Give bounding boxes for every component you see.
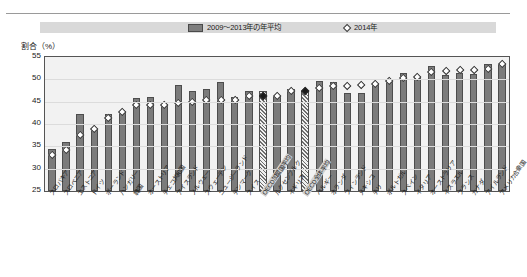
legend-bar-label: 2009～2013年の年平均 — [207, 24, 281, 32]
y-tick-label: 40 — [32, 119, 44, 127]
y-tick-label: 30 — [32, 163, 44, 171]
legend-item-bar: 2009～2013年の年平均 — [188, 24, 281, 32]
legend-item-diamond: 2014年 — [343, 24, 377, 32]
bar[interactable] — [147, 97, 154, 191]
y-tick-label: 45 — [32, 96, 44, 104]
bar[interactable] — [105, 114, 112, 191]
gridline-35 — [45, 146, 509, 147]
bar[interactable] — [470, 74, 477, 191]
diamond-marker[interactable] — [357, 81, 366, 90]
gridline-50 — [45, 79, 509, 80]
legend-diamond-label: 2014年 — [354, 24, 377, 32]
y-tick-label: 25 — [32, 186, 44, 194]
legend-diamond-swatch-icon — [343, 24, 350, 31]
gridline-45 — [45, 102, 509, 103]
y-axis-ticks: 25303540455055 — [0, 56, 44, 192]
bar[interactable] — [428, 66, 435, 191]
bar[interactable] — [386, 82, 393, 191]
y-tick-label: 50 — [32, 74, 44, 82]
bar[interactable] — [259, 91, 266, 191]
y-tick-label: 35 — [32, 141, 44, 149]
x-axis-labels: スロバキアスロベニアエストニアドイツポーランドハンガリー韓国オーストリアチェコ共… — [44, 193, 510, 277]
y-axis-title: 割合（%） — [21, 40, 60, 51]
chart-legend: 2009～2013年の年平均 2014年 — [40, 21, 496, 34]
bar[interactable] — [484, 64, 491, 191]
diamond-marker[interactable] — [343, 82, 352, 91]
y-tick-label: 55 — [32, 52, 44, 60]
legend-bar-swatch-icon — [188, 24, 203, 32]
gridline-40 — [45, 124, 509, 125]
diamond-marker[interactable] — [469, 65, 478, 74]
top-divider — [6, 13, 510, 14]
